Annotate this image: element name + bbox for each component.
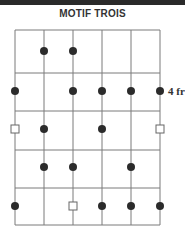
fret-position-label: 4 fr [168,85,185,97]
finger-dot-icon [69,163,77,171]
finger-dot-icon [127,202,135,210]
finger-dot-icon [98,87,106,95]
finger-dot-icon [98,202,106,210]
finger-dot-icon [11,202,19,210]
finger-dot-icon [69,47,77,55]
open-square-icon [69,202,77,210]
fretboard-diagram [0,0,185,249]
finger-dot-icon [40,47,48,55]
finger-dot-icon [69,87,77,95]
open-square-icon [156,125,164,133]
finger-dot-icon [156,202,164,210]
finger-dot-icon [11,87,19,95]
finger-dot-icon [98,125,106,133]
finger-dot-icon [127,163,135,171]
open-square-icon [11,125,19,133]
finger-dot-icon [156,87,164,95]
finger-dot-icon [40,163,48,171]
finger-dot-icon [40,125,48,133]
finger-dot-icon [127,87,135,95]
